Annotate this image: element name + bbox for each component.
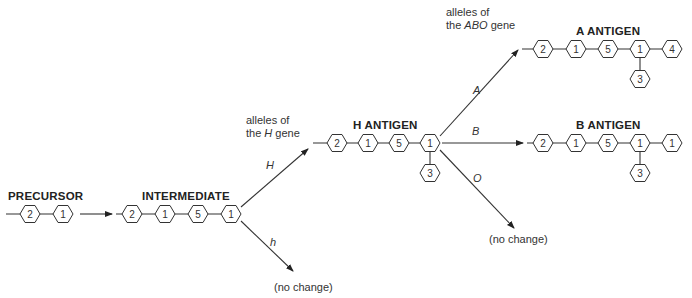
svg-text:3: 3: [427, 168, 433, 179]
allele-h-label: h: [270, 236, 276, 248]
svg-text:1: 1: [637, 138, 643, 149]
precursor-sugar-hexagon: 1: [53, 206, 73, 223]
h-antigen-sugar-hexagon: 5: [389, 135, 409, 152]
intermediate-label: INTERMEDIATE: [142, 190, 230, 202]
h-antigen-sugar-hexagon: 1: [420, 135, 440, 152]
b-antigen-sugar-hexagon: 1: [662, 135, 682, 152]
abo-gene-alleles-caption: alleles of the ABO gene: [446, 6, 515, 32]
intermediate-sugar-hexagon: 2: [122, 206, 142, 223]
caption-text: the: [446, 19, 464, 31]
allele-O-label: O: [473, 172, 482, 184]
allele-A-label: A: [473, 84, 480, 96]
b-antigen-sugar-hexagon: 1: [630, 135, 650, 152]
a-antigen-label: A ANTIGEN: [576, 25, 640, 37]
h-antigen-sugar-hexagon: 1: [358, 135, 378, 152]
h-antigen-branch-hexagon: 3: [420, 165, 440, 182]
svg-text:1: 1: [427, 138, 433, 149]
svg-text:5: 5: [396, 138, 402, 149]
h-antigen-label: H ANTIGEN: [353, 119, 418, 131]
h-gene-alleles-caption: alleles of the H gene: [246, 114, 300, 140]
svg-text:5: 5: [195, 209, 201, 220]
svg-text:4: 4: [669, 44, 675, 55]
svg-text:2: 2: [129, 209, 135, 220]
svg-text:2: 2: [334, 138, 340, 149]
b-antigen-sugar-hexagon: 5: [598, 135, 618, 152]
svg-text:2: 2: [540, 138, 546, 149]
svg-text:1: 1: [162, 209, 168, 220]
svg-text:1: 1: [365, 138, 371, 149]
a-antigen-sugar-hexagon: 2: [533, 41, 553, 58]
abo-biosynthesis-diagram: 21215121512151421511333 PRECURSOR INTERM…: [0, 0, 692, 298]
b-antigen-label: B ANTIGEN: [576, 119, 641, 131]
svg-text:1: 1: [637, 44, 643, 55]
h-antigen-sugar-hexagon: 2: [327, 135, 347, 152]
svg-text:2: 2: [27, 209, 33, 220]
svg-text:1: 1: [573, 44, 579, 55]
b-antigen-sugar-hexagon: 2: [533, 135, 553, 152]
svg-text:3: 3: [637, 168, 643, 179]
a-antigen-sugar-hexagon: 5: [598, 41, 618, 58]
a-antigen-sugar-hexagon: 1: [566, 41, 586, 58]
intermediate-sugar-hexagon: 1: [221, 206, 241, 223]
h-gene-caption-line2: the H gene: [246, 127, 300, 140]
b-antigen-branch-hexagon: 3: [630, 165, 650, 182]
no-change-o-label: (no change): [489, 233, 548, 245]
caption-text: gene: [488, 19, 516, 31]
h-gene-caption-line1: alleles of: [246, 114, 300, 127]
a-antigen-branch-hexagon: 3: [630, 71, 650, 88]
abo-gene-caption-line2: the ABO gene: [446, 19, 515, 32]
precursor-label: PRECURSOR: [8, 190, 83, 202]
allele-H-label: H: [266, 159, 274, 171]
a-antigen-sugar-hexagon: 1: [630, 41, 650, 58]
svg-text:1: 1: [60, 209, 66, 220]
svg-text:2: 2: [540, 44, 546, 55]
pathway-graphic: 21215121512151421511333: [0, 0, 692, 298]
svg-text:5: 5: [605, 138, 611, 149]
abo-gene-caption-line1: alleles of: [446, 6, 515, 19]
svg-text:3: 3: [637, 74, 643, 85]
svg-text:1: 1: [573, 138, 579, 149]
gene-name: ABO: [464, 19, 487, 31]
no-change-h-label: (no change): [274, 281, 333, 293]
caption-text: gene: [272, 127, 300, 139]
intermediate-sugar-hexagon: 1: [155, 206, 175, 223]
a-antigen-sugar-hexagon: 4: [662, 41, 682, 58]
b-antigen-sugar-hexagon: 1: [566, 135, 586, 152]
caption-text: the: [246, 127, 264, 139]
precursor-sugar-hexagon: 2: [20, 206, 40, 223]
allele-B-label: B: [472, 125, 479, 137]
intermediate-sugar-hexagon: 5: [188, 206, 208, 223]
svg-text:5: 5: [605, 44, 611, 55]
svg-text:1: 1: [669, 138, 675, 149]
svg-text:1: 1: [228, 209, 234, 220]
